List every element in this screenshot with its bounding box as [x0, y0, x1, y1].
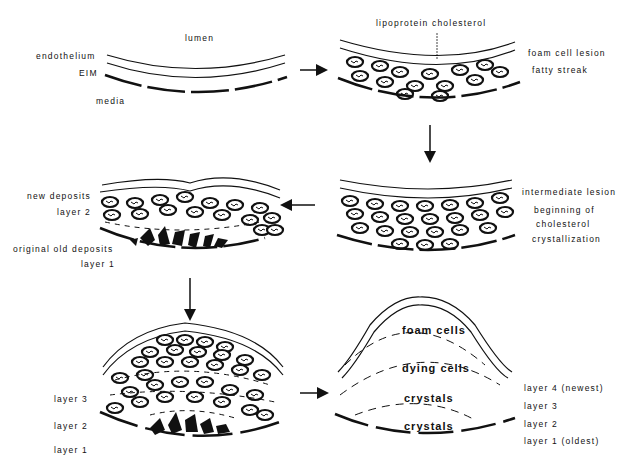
label-crystallization: crystallization: [532, 234, 601, 244]
label-endothelium: endothelium: [36, 51, 96, 61]
panel-normal-artery: [105, 55, 287, 92]
label-layer-1-oldest: layer 1 (oldest): [524, 436, 599, 446]
label-crystals-upper: crystals: [404, 392, 454, 404]
label-foam-cell-lesion: foam cell lesion: [528, 48, 606, 58]
label-intermediate-lesion: intermediate lesion: [522, 187, 616, 197]
panel-intermediate-lesion: [337, 180, 515, 250]
label-layer-2: layer 2: [54, 421, 88, 431]
panel-three-layer-plaque: [100, 323, 285, 436]
label-crystals-lower: crystals: [404, 420, 454, 432]
label-layer-3: layer 3: [54, 394, 88, 404]
label-new-deposits: new deposits: [27, 191, 91, 201]
label-dying-cells: dying cells: [402, 362, 470, 374]
label-layer-2: layer 2: [57, 207, 91, 217]
panel-foam-cell-lesion: [338, 33, 520, 101]
label-original-old-deposits: original old deposits: [13, 244, 113, 254]
label-layer-1: layer 1: [81, 259, 115, 269]
label-media: media: [96, 96, 125, 106]
label-layer-1: layer 1: [54, 445, 88, 455]
label-lumen: lumen: [185, 33, 214, 43]
label-layer-4-newest: layer 4 (newest): [524, 383, 604, 393]
label-eim: EIM: [79, 68, 98, 78]
panel-new-deposits: [100, 178, 283, 248]
label-lipoprotein-cholesterol: lipoprotein cholesterol: [376, 18, 486, 28]
label-fatty-streak: fatty streak: [532, 65, 588, 75]
label-beginning-of: beginning of: [534, 205, 595, 215]
label-layer-2: layer 2: [524, 419, 558, 429]
label-layer-3: layer 3: [524, 401, 558, 411]
label-foam-cells: foam cells: [402, 324, 466, 336]
label-cholesterol: cholesterol: [536, 219, 590, 229]
